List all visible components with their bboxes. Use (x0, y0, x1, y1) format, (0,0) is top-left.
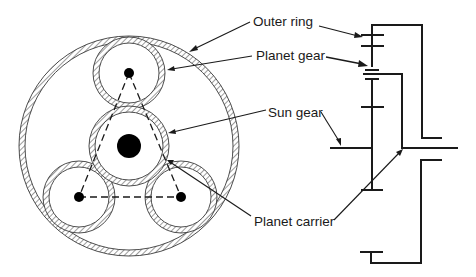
schematic-planet-gear (362, 25, 383, 190)
arrow-head-icon (358, 60, 368, 67)
schematic-planet-carrier (364, 74, 457, 148)
planet-pin-bottom-right (176, 192, 186, 202)
sun-gear-hub (117, 134, 141, 158)
arrow-head-icon (189, 45, 198, 52)
label-planet-gear: Planet gear (256, 48, 326, 63)
planet-pin-bottom-left (74, 192, 84, 202)
arrow-head-icon (168, 129, 176, 134)
sun-gear (89, 106, 169, 186)
planet-pin-top (124, 68, 134, 78)
arrow-head-icon (167, 66, 175, 71)
side-view-schematic (331, 25, 457, 263)
label-outer-ring: Outer ring (253, 14, 313, 29)
label-planet-carrier: Planet carrier (254, 214, 335, 229)
front-view (19, 36, 239, 256)
label-sun-gear: Sun gear (268, 105, 323, 120)
arrow-head-icon (336, 138, 341, 146)
planetary-gear-diagram: Outer ring Planet gear Sun gear Planet c… (0, 0, 476, 277)
